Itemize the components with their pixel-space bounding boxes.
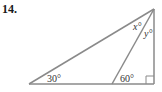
angle-label-60: 60° [120,73,134,84]
triangle-diagram: 30° 60° x° y° [0,0,162,92]
right-angle-marker [146,76,154,84]
angle-label-y: y° [143,28,152,39]
angle-label-30: 30° [47,73,61,84]
angle-label-x: x° [132,21,141,32]
